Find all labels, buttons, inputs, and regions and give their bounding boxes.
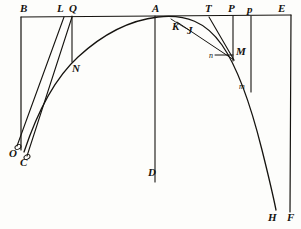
chord-Q-to-C xyxy=(27,17,72,156)
vertical-E-to-F xyxy=(290,15,291,212)
point-label-Q: Q xyxy=(69,3,77,14)
point-label-K: K xyxy=(172,21,179,32)
point-label-P: P xyxy=(228,3,235,14)
point-label-D: D xyxy=(148,167,156,178)
point-label-O: O xyxy=(9,148,17,159)
point-label-A: A xyxy=(152,3,159,14)
point-label-p: p xyxy=(247,4,253,15)
point-label-F: F xyxy=(287,212,294,223)
geometry-figure: B L Q A T P p E K J N M n m O C D H F xyxy=(0,0,301,229)
point-label-n: n xyxy=(209,52,213,60)
point-label-B: B xyxy=(20,3,27,14)
figure-canvas xyxy=(0,0,301,229)
point-label-L: L xyxy=(57,3,64,14)
point-label-M: M xyxy=(236,46,246,57)
point-label-H: H xyxy=(268,212,277,223)
point-label-N: N xyxy=(72,63,80,74)
point-label-J: J xyxy=(187,25,193,36)
point-label-m: m xyxy=(239,83,245,91)
point-label-C: C xyxy=(20,157,27,168)
point-label-E: E xyxy=(278,3,285,14)
point-label-T: T xyxy=(205,3,212,14)
